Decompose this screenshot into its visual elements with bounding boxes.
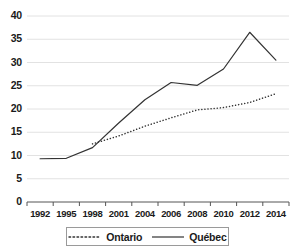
x-axis-ticks xyxy=(27,202,289,206)
y-tick-label: 20 xyxy=(0,102,22,114)
y-tick-label: 5 xyxy=(0,172,22,184)
y-tick-label: 30 xyxy=(0,56,22,68)
y-tick-label: 40 xyxy=(0,9,22,21)
y-tick-label: 10 xyxy=(0,149,22,161)
line-chart: 0510152025303540 19921995199820012004200… xyxy=(0,0,295,252)
legend-swatch-ontario xyxy=(68,233,102,241)
legend-item-quebec: Québec xyxy=(151,231,226,243)
x-tick-label: 2014 xyxy=(261,208,291,219)
y-tick-label: 25 xyxy=(0,79,22,91)
series-line-qubec xyxy=(40,32,276,158)
legend-swatch-quebec xyxy=(151,233,185,241)
series-line-ontario xyxy=(93,94,276,144)
chart-legend: Ontario Québec xyxy=(66,227,229,246)
legend-item-ontario: Ontario xyxy=(68,231,142,243)
data-series xyxy=(40,32,276,158)
y-tick-label: 0 xyxy=(0,195,22,207)
legend-label-ontario: Ontario xyxy=(106,231,142,243)
y-tick-label: 15 xyxy=(0,125,22,137)
y-tick-label: 35 xyxy=(0,32,22,44)
gridlines xyxy=(27,16,289,179)
legend-label-quebec: Québec xyxy=(189,231,226,243)
